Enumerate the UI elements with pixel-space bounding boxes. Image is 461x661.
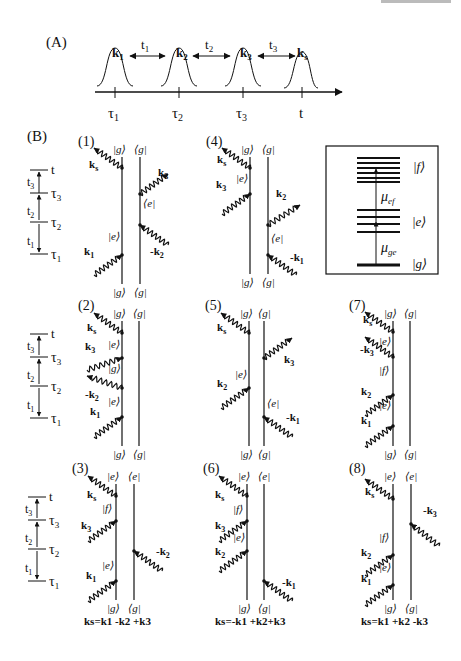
svg-text:t: t: [49, 489, 53, 504]
bottom-bra: ⟨g|: [404, 448, 417, 460]
svg-text:t3: t3: [27, 175, 34, 191]
level-f-label: |f⟩: [413, 159, 425, 174]
svg-text:τ2: τ2: [49, 542, 59, 559]
svg-text:-k2: -k2: [150, 245, 164, 260]
top-ket: |g⟩: [384, 307, 397, 319]
timeline-row-3: t τ3 τ2 τ1 t3 t2 t1: [25, 489, 60, 591]
diagram-number: (7): [349, 298, 366, 314]
intermediate-state: ⟨e|: [267, 397, 279, 409]
svg-text:τ1: τ1: [49, 574, 59, 591]
svg-text:t1: t1: [141, 37, 149, 54]
bottom-bra: ⟨g|: [258, 448, 271, 460]
intermediate-state: |f⟩: [379, 364, 389, 376]
top-bra: ⟨g|: [133, 307, 146, 319]
svg-text:τ2: τ2: [51, 379, 61, 396]
svg-text:ks: ks: [217, 153, 226, 168]
feynman-diagram-6: (6)|e⟩⟨e||g⟩⟨g|-k1k2k3ks|e⟩|f⟩ks=-k1 +k2…: [203, 461, 296, 627]
bottom-ket: |g⟩: [113, 286, 126, 298]
bottom-bra: ⟨g|: [128, 602, 141, 614]
bottom-bra: ⟨g|: [405, 602, 418, 614]
intermediate-state: |f⟩: [379, 531, 389, 543]
intermediate-state: |e⟩: [233, 531, 245, 543]
panel-a-label: (A): [46, 34, 67, 51]
svg-text:k2: k2: [176, 45, 188, 62]
diagram-number: (3): [72, 461, 89, 477]
svg-text:k1: k1: [112, 45, 124, 62]
bottom-bra: ⟨g|: [134, 286, 147, 298]
feynman-diagram-4: (4)|g⟩⟨g||g⟩⟨g|-k1k2k3ks|e⟩⟨e|: [206, 134, 304, 288]
level-e-label: |e⟩: [412, 214, 426, 229]
svg-text:-k3: -k3: [423, 504, 437, 519]
feynman-diagram-1: (1)|g⟩⟨g||g⟩⟨g|k1-k2k3ks|e⟩⟨e|: [78, 134, 169, 298]
bottom-ket: |g⟩: [384, 602, 397, 614]
intermediate-state: |f⟩: [233, 503, 243, 515]
svg-text:k2: k2: [361, 385, 371, 400]
bottom-ket: |g⟩: [107, 602, 120, 614]
feynman-diagrams: (1)|g⟩⟨g||g⟩⟨g|k1-k2k3ks|e⟩⟨e|(2)|g⟩⟨g||…: [72, 134, 440, 627]
svg-text:ks: ks: [87, 488, 96, 503]
svg-text:k2: k2: [217, 377, 227, 392]
level-g-label: |g⟩: [412, 256, 427, 271]
intermediate-state: |g⟩: [108, 362, 121, 374]
intermediate-state: |e⟩: [379, 399, 391, 411]
svg-text:ks: ks: [217, 321, 226, 336]
svg-text:τ3: τ3: [51, 350, 62, 367]
feynman-diagram-7: (7)|g⟩⟨g||g⟩⟨g|k1k2-k3ks|e⟩|f⟩|e⟩: [349, 298, 417, 460]
svg-text:ks: ks: [87, 321, 96, 336]
svg-text:τ1: τ1: [51, 247, 61, 264]
svg-text:k3: k3: [284, 353, 294, 368]
top-bra: ⟨e|: [405, 470, 417, 482]
intermediate-state: |e⟩: [379, 561, 391, 573]
svg-text:k2: k2: [361, 546, 371, 561]
top-bra: ⟨g|: [262, 143, 275, 155]
timeline-row-1: t τ3 τ2 τ1 t3 t2 t1: [27, 162, 62, 264]
top-bra: ⟨g|: [404, 307, 417, 319]
svg-text:-k2: -k2: [85, 388, 99, 403]
svg-text:ks: ks: [215, 488, 224, 503]
phase-matching-formula: ks=k1 +k2 -k3: [361, 615, 428, 627]
svg-text:ks: ks: [297, 45, 308, 62]
svg-text:t3: t3: [269, 37, 278, 54]
svg-text:τ3: τ3: [51, 186, 62, 203]
svg-text:-k1: -k1: [286, 411, 300, 426]
svg-text:t2: t2: [27, 204, 34, 220]
svg-text:t2: t2: [25, 531, 32, 547]
intermediate-state: |e⟩: [108, 395, 120, 407]
diagram-number: (4): [206, 134, 223, 150]
svg-text:t2: t2: [205, 37, 213, 54]
top-bra: ⟨e|: [128, 470, 140, 482]
top-ket: |g⟩: [241, 143, 254, 155]
bottom-bra: ⟨g|: [133, 448, 146, 460]
svg-text:k1: k1: [86, 569, 96, 584]
svg-text:k1: k1: [361, 572, 371, 587]
diagram-number: (6): [203, 461, 220, 477]
svg-text:t1: t1: [27, 398, 34, 414]
top-ket: |e⟩: [238, 470, 250, 482]
svg-text:t3: t3: [25, 502, 32, 518]
panel-b-label: (B): [27, 128, 47, 145]
intermediate-state: |e⟩: [235, 368, 247, 380]
timeline-row-2: t τ3 τ2 τ1 t3 t2 t1: [27, 326, 62, 428]
svg-text:k3: k3: [215, 519, 225, 534]
svg-text:k2: k2: [276, 187, 286, 202]
e-manifold: [357, 210, 400, 232]
top-ket: |g⟩: [113, 307, 126, 319]
phase-matching-formula: ks=-k1 +k2+k3: [215, 615, 286, 627]
svg-text:-k3: -k3: [360, 343, 374, 358]
top-bra: ⟨g|: [134, 143, 147, 155]
diagram-number: (8): [349, 461, 366, 477]
top-ket: |e⟩: [384, 470, 396, 482]
svg-text:τ3: τ3: [236, 105, 247, 123]
svg-text:k3: k3: [240, 45, 252, 62]
svg-text:k1: k1: [90, 405, 100, 420]
mu-ef-label: μef: [380, 189, 396, 206]
svg-text:-k1: -k1: [290, 251, 304, 266]
bottom-bra: ⟨g|: [262, 276, 275, 288]
intermediate-state: |e⟩: [102, 559, 114, 571]
intermediate-state: |e⟩: [236, 172, 248, 184]
bottom-ket: |g⟩: [384, 448, 397, 460]
svg-text:k3: k3: [85, 340, 95, 355]
svg-text:k3: k3: [216, 178, 226, 193]
top-ket: |g⟩: [113, 143, 126, 155]
svg-text:k3: k3: [158, 166, 168, 181]
